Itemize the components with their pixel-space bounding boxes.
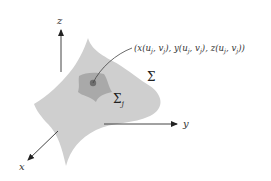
x-axis [28, 131, 58, 160]
y-axis-label: y [182, 118, 189, 129]
surface-label: Σ [147, 70, 155, 84]
point-coordinates-label: (x(uj, vj), y(uj, vj), z(uj, vj)) [134, 43, 245, 55]
surface-sigma [34, 38, 161, 166]
x-axis-label: x [19, 161, 25, 172]
z-axis-label: z [56, 15, 63, 26]
surface-diagram: z (x(uj, vj), y(uj, vj), z(uj, vj)) Σj Σ… [0, 0, 271, 181]
